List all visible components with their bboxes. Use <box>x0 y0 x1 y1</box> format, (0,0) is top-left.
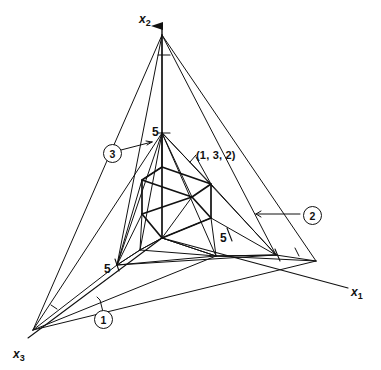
leader-line-2 <box>256 211 300 217</box>
axis-x1 <box>162 238 348 288</box>
figure-linework <box>0 0 381 370</box>
axis-label-x1: x1 <box>351 286 363 301</box>
constraint-marker-1: 1 <box>94 310 113 329</box>
constraint-plane-2 <box>162 35 316 261</box>
tick-label-x1-5: 5 <box>220 232 227 244</box>
tick-label-x2-5: 5 <box>152 126 159 138</box>
axis-label-x3: x3 <box>13 348 25 363</box>
leader-line-3 <box>121 141 152 150</box>
edge-tick-marks <box>51 248 299 309</box>
constraint-plane-1 <box>33 256 316 330</box>
optimal-vertex-label: (1, 3, 2) <box>196 150 236 161</box>
linear-programming-3d-figure: x2 x1 x3 5 5 5 (1, 3, 2) 1 2 3 <box>0 0 381 370</box>
tick-label-x3-5: 5 <box>104 263 111 275</box>
plane-traces <box>33 35 276 330</box>
feasible-region-polytope <box>142 167 211 238</box>
axis-label-x2: x2 <box>139 13 151 28</box>
constraint-marker-2: 2 <box>303 206 322 225</box>
constraint-marker-3: 3 <box>103 144 122 163</box>
